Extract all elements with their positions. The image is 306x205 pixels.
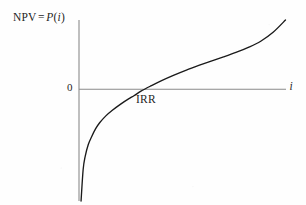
- npv-curve: [81, 20, 285, 201]
- y-axis-label-equals: =: [37, 11, 47, 23]
- y-axis-label-function: P: [46, 11, 53, 23]
- y-axis-label-close-paren: ): [61, 11, 65, 23]
- y-axis-label: NPV=P(i): [13, 12, 65, 24]
- npv-irr-figure: NPV=P(i) 0 IRR i: [0, 0, 306, 205]
- x-axis-label: i: [290, 81, 293, 93]
- origin-label: 0: [67, 82, 73, 93]
- irr-label: IRR: [136, 94, 156, 106]
- y-axis-label-npv: NPV: [13, 11, 37, 23]
